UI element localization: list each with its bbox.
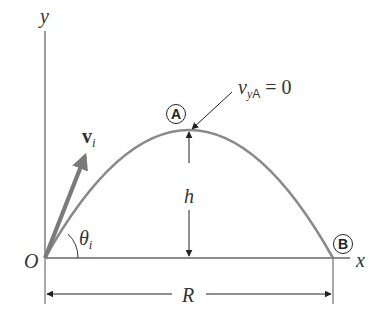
landing-marker: B xyxy=(333,234,353,254)
launch-angle-subscript: i xyxy=(89,237,93,252)
x-axis-label: x xyxy=(356,250,365,270)
initial-velocity-subscript: i xyxy=(92,135,96,150)
apex-marker: A xyxy=(166,104,186,124)
range-label: R xyxy=(182,285,194,305)
apex-pointer-arrow xyxy=(192,92,232,129)
origin-label: O xyxy=(24,251,38,271)
apex-velocity-note: vyA = 0 xyxy=(238,77,292,100)
height-label: h xyxy=(184,186,194,206)
apex-velocity-symbol: v xyxy=(238,76,247,98)
launch-angle-label: θi xyxy=(79,228,92,251)
initial-velocity-label: vi xyxy=(82,126,96,149)
initial-velocity-symbol: v xyxy=(82,125,92,147)
launch-angle-symbol: θ xyxy=(79,227,89,249)
y-axis-label: y xyxy=(40,6,49,26)
projectile-diagram xyxy=(0,0,383,327)
apex-velocity-sub-point: A xyxy=(252,87,260,101)
launch-angle-arc xyxy=(68,234,78,258)
apex-velocity-equals: = 0 xyxy=(265,76,291,98)
